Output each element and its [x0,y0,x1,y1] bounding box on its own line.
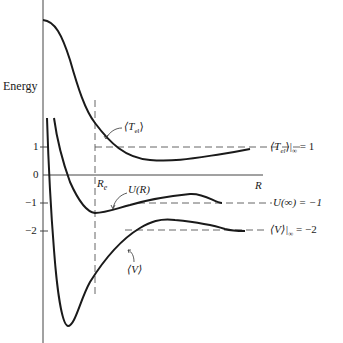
u-curve-label: U(R) [128,184,150,195]
u-asymptote-label: U(∞) = −1 [273,197,322,208]
x-axis-label: R [255,180,262,191]
v-curve-label: ⟨V⟩ [127,264,142,275]
y-axis-label: Energy [3,80,37,92]
v-asymptote-label: ⟨V⟩|∞ = −2 [270,224,317,238]
tel-curve-label: ⟨Tel⟩ [124,121,144,135]
energy-diagram [0,0,343,343]
re-label: Re [97,178,107,192]
tick-label-minus1: −1 [25,197,37,208]
tick-label-0: 0 [33,169,39,180]
tick-label-minus2: −2 [25,225,37,236]
tel-pointer [106,128,122,138]
v-curve [47,118,245,326]
tick-label-1: 1 [33,141,39,152]
tel-asymptote-label: ⟨Tel⟩|∞ = 1 [270,141,314,155]
tel-curve [43,20,250,161]
y-ticks [40,147,48,231]
